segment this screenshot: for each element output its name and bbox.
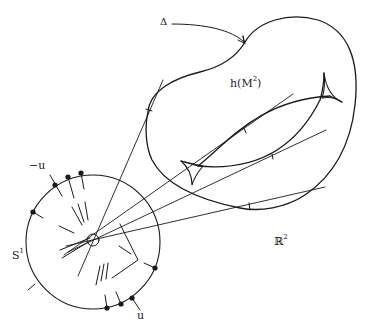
ray bbox=[64, 94, 293, 255]
label-region-text: h(M bbox=[230, 77, 253, 90]
cusp-curve-upper bbox=[198, 96, 342, 166]
label-circle-text: S bbox=[12, 249, 20, 262]
label-circle: S1 bbox=[12, 250, 24, 261]
label-delta: Δ bbox=[160, 17, 167, 27]
diagram-canvas bbox=[0, 0, 371, 334]
label-region-close: ) bbox=[257, 77, 261, 90]
label-plane-sup: 2 bbox=[283, 233, 287, 241]
label-u-text: u bbox=[137, 309, 144, 322]
label-delta-text: Δ bbox=[160, 16, 167, 27]
cusp-right bbox=[322, 73, 342, 102]
label-neg-u: −u bbox=[29, 160, 45, 171]
label-region-sup: 2 bbox=[253, 75, 257, 83]
label-plane-text: ℝ bbox=[274, 235, 283, 248]
label-u: u bbox=[137, 310, 144, 321]
region-blob bbox=[146, 17, 356, 210]
label-neg-u-text: −u bbox=[29, 159, 45, 172]
label-plane: ℝ2 bbox=[274, 236, 288, 247]
label-region: h(M2) bbox=[230, 78, 261, 89]
label-circle-sup: 1 bbox=[20, 247, 24, 255]
delta-arrow bbox=[172, 24, 244, 42]
